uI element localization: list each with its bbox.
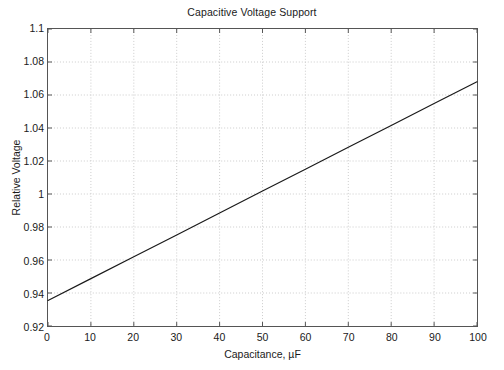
- x-axis-tick-label: 100: [469, 331, 487, 343]
- data-series-line: [48, 29, 477, 326]
- x-axis-tick-label: 10: [84, 331, 96, 343]
- x-axis-tick-label: 0: [44, 331, 50, 343]
- chart-title: Capacitive Voltage Support: [0, 6, 504, 18]
- x-axis-tick-label: 50: [257, 331, 269, 343]
- plot-area: [47, 28, 478, 327]
- x-axis-tick-label: 70: [343, 331, 355, 343]
- x-axis-tick-label: 60: [300, 331, 312, 343]
- y-axis-label: Relative Voltage: [8, 28, 24, 327]
- x-axis-tick-label: 20: [127, 331, 139, 343]
- x-axis-tick-label: 80: [386, 331, 398, 343]
- x-axis-label: Capacitance, µF: [47, 348, 478, 360]
- chart-figure: Capacitive Voltage Support 0.920.940.960…: [0, 0, 504, 370]
- x-axis-tick-label: 30: [170, 331, 182, 343]
- x-axis-tick-label: 40: [214, 331, 226, 343]
- x-axis-tick-label: 90: [429, 331, 441, 343]
